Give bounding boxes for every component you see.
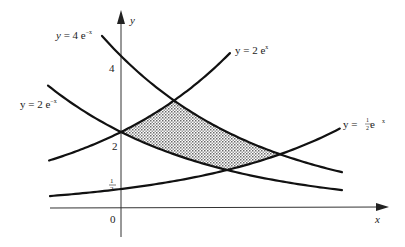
x-axis-label: x [374,213,380,225]
svg-text:1: 1 [366,117,369,123]
shaded-region [121,101,280,170]
label-4e-neg-x: y = 4 e−x [55,29,92,41]
tick-label-4: 4 [109,62,115,74]
label-2e-x: y = 2 ex [235,44,268,56]
svg-text:y =: y = [343,118,357,130]
origin-label: 0 [110,213,116,225]
y-axis-label: y [129,14,135,26]
label-half-e-x: y = 1 2 e x [343,117,385,131]
tick-label-2: 2 [112,140,118,152]
label-2e-neg-x: y = 2 e−x [20,98,57,110]
svg-text:e: e [370,118,375,130]
svg-text:2: 2 [110,185,114,193]
svg-text:2: 2 [366,125,369,131]
y-axis-arrow-icon [117,10,125,24]
x-axis [50,207,382,208]
x-axis-arrow-icon [376,203,389,211]
svg-text:1: 1 [110,177,114,185]
exponential-curves-diagram: y x 0 4 2 1 2 y = 4 e−x y = 2 ex y = 2 e… [0,0,405,247]
svg-text:x: x [382,118,385,124]
